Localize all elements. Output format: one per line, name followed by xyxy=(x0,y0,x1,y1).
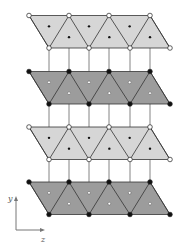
interlayer-connectors xyxy=(49,48,150,182)
z-axis-label: z xyxy=(40,235,46,244)
vertex-atom-icon xyxy=(87,46,92,51)
vertex-atom-icon xyxy=(67,69,72,74)
vertex-atom-icon xyxy=(47,102,52,107)
vertex-atom-icon xyxy=(148,180,153,185)
vertex-atom-icon xyxy=(47,212,52,217)
center-atom-icon xyxy=(88,81,91,84)
center-atom-icon xyxy=(149,202,152,205)
layer-1 xyxy=(27,13,173,50)
center-atom-icon xyxy=(149,147,151,149)
vertex-atom-icon xyxy=(47,46,52,51)
vertex-atom-icon xyxy=(27,180,32,185)
vertex-atom-icon xyxy=(128,46,133,51)
vertex-atom-icon xyxy=(67,125,72,130)
center-atom-icon xyxy=(48,137,50,139)
center-atom-icon xyxy=(68,202,71,205)
vertex-atom-icon xyxy=(148,125,153,130)
layer-outline xyxy=(29,182,170,215)
vertex-atom-icon xyxy=(67,13,72,18)
center-atom-icon xyxy=(88,25,90,27)
vertex-atom-icon xyxy=(107,13,112,18)
center-atom-icon xyxy=(128,81,131,84)
vertex-atom-icon xyxy=(128,157,133,162)
vertex-atom-icon xyxy=(107,125,112,130)
vertex-atom-icon xyxy=(107,180,112,185)
layer-4 xyxy=(27,180,173,217)
vertex-atom-icon xyxy=(168,212,173,217)
vertex-atom-icon xyxy=(148,69,153,74)
center-atom-icon xyxy=(48,81,51,84)
center-atom-icon xyxy=(128,137,130,139)
vertex-atom-icon xyxy=(27,69,32,74)
vertex-atom-icon xyxy=(128,102,133,107)
layer-outline xyxy=(29,127,170,160)
center-atom-icon xyxy=(48,25,50,27)
vertex-atom-icon xyxy=(87,157,92,162)
vertex-atom-icon xyxy=(27,125,32,130)
vertex-atom-icon xyxy=(107,69,112,74)
layered-structure-diagram: y z xyxy=(0,0,183,246)
layer-outline xyxy=(29,72,170,105)
vertex-atom-icon xyxy=(87,102,92,107)
vertex-atom-icon xyxy=(168,46,173,51)
center-atom-icon xyxy=(88,191,91,194)
center-atom-icon xyxy=(128,191,131,194)
layer-outline xyxy=(29,16,170,49)
vertex-atom-icon xyxy=(87,212,92,217)
vertex-atom-icon xyxy=(67,180,72,185)
vertex-atom-icon xyxy=(148,13,153,18)
layer-2 xyxy=(27,69,173,106)
center-atom-icon xyxy=(149,36,151,38)
vertex-atom-icon xyxy=(128,212,133,217)
center-atom-icon xyxy=(128,25,130,27)
center-atom-icon xyxy=(88,137,90,139)
z-axis-arrow-icon xyxy=(40,228,45,232)
center-atom-icon xyxy=(149,92,152,95)
center-atom-icon xyxy=(108,202,111,205)
center-atom-icon xyxy=(48,191,51,194)
vertex-atom-icon xyxy=(27,13,32,18)
center-atom-icon xyxy=(108,92,111,95)
vertex-atom-icon xyxy=(47,157,52,162)
center-atom-icon xyxy=(108,36,110,38)
center-atom-icon xyxy=(108,147,110,149)
center-atom-icon xyxy=(68,92,71,95)
coordinate-axes: y z xyxy=(7,194,46,244)
vertex-atom-icon xyxy=(168,157,173,162)
center-atom-icon xyxy=(68,36,70,38)
vertex-atom-icon xyxy=(168,102,173,107)
octahedral-layers xyxy=(27,13,173,217)
y-axis-label: y xyxy=(7,194,13,203)
layer-3 xyxy=(27,125,173,162)
y-axis-arrow-icon xyxy=(14,196,18,201)
center-atom-icon xyxy=(68,147,70,149)
